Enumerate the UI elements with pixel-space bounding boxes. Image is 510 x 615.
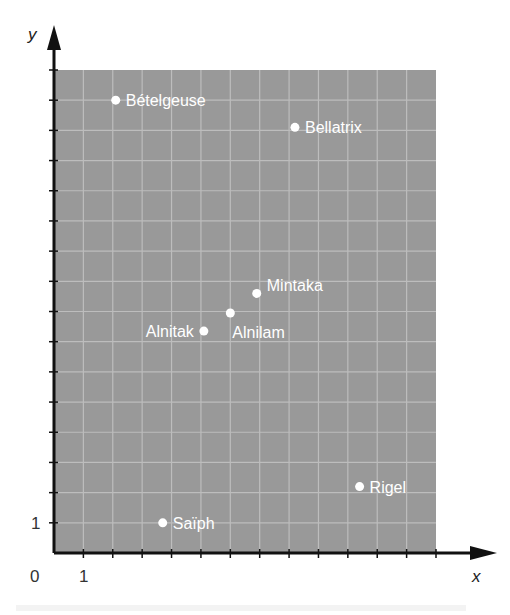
y-tick-label-1: 1: [31, 514, 40, 533]
star-label: Mintaka: [267, 277, 323, 294]
y-axis-arrow-icon: [47, 25, 61, 50]
star-label: Rigel: [370, 479, 406, 496]
star-dot-icon: [290, 123, 299, 132]
star-label: Alnilam: [232, 324, 284, 341]
star-label: Bételgeuse: [126, 92, 206, 109]
footer-band: [16, 605, 466, 611]
star-dot-icon: [252, 289, 261, 298]
star-label: Saïph: [173, 515, 215, 532]
star-btelgeuse: Bételgeuse: [111, 92, 206, 109]
orion-scatter-chart: x y 0 1 1 BételgeuseBellatrixMintakaAlni…: [0, 0, 510, 615]
star-dot-icon: [158, 518, 167, 527]
x-axis-arrow-icon: [470, 546, 497, 560]
star-dot-icon: [355, 482, 364, 491]
star-dot-icon: [111, 96, 120, 105]
star-dot-icon: [199, 327, 208, 336]
star-label: Alnitak: [146, 323, 195, 340]
x-tick-label-1: 1: [79, 567, 88, 586]
y-axis-label: y: [27, 25, 38, 44]
x-axis-label: x: [471, 567, 481, 586]
star-dot-icon: [226, 309, 235, 318]
origin-label: 0: [30, 567, 39, 586]
star-label: Bellatrix: [305, 119, 362, 136]
